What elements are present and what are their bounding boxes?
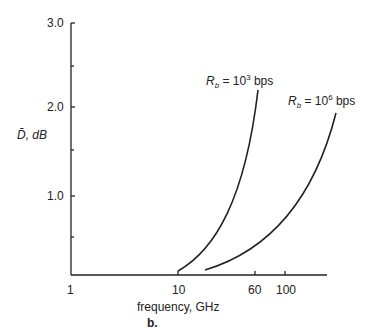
x-axis-label: frequency, GHz [137, 300, 219, 314]
curve-rb-1e6 [205, 113, 336, 270]
legend-rb-1e6: Rb = 106 bps [288, 93, 355, 110]
ytick-2: 2.0 [47, 100, 64, 114]
xtick-100: 100 [276, 283, 296, 297]
ytick-3: 3.0 [47, 16, 64, 30]
y-axis-label: D̄, dB [17, 128, 47, 142]
xtick-10: 10 [172, 283, 185, 297]
xtick-1: 1 [67, 283, 74, 297]
caption: b. [147, 316, 158, 330]
xtick-60: 60 [248, 283, 261, 297]
curve-rb-1e3 [178, 90, 258, 271]
chart-plot [0, 0, 378, 330]
legend-rb-1e3: Rb = 103 bps [206, 73, 273, 90]
ytick-1: 1.0 [47, 189, 64, 203]
